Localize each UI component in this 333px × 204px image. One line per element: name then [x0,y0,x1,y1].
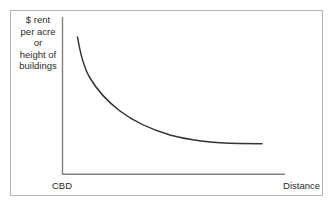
y-axis-label-line-5: buildings [14,60,62,72]
y-axis-label-line-3: or [14,37,62,49]
y-axis-label-line-1: $ rent [14,14,62,26]
figure-root: $ rent per acre or height of buildings C… [0,0,333,204]
y-axis-label: $ rent per acre or height of buildings [14,14,62,72]
x-axis-label: Distance [283,180,320,191]
x-axis-origin-label: CBD [52,180,72,191]
y-axis-label-line-2: per acre [14,26,62,38]
bid-rent-curve [78,37,263,144]
y-axis-label-line-4: height of [14,49,62,61]
